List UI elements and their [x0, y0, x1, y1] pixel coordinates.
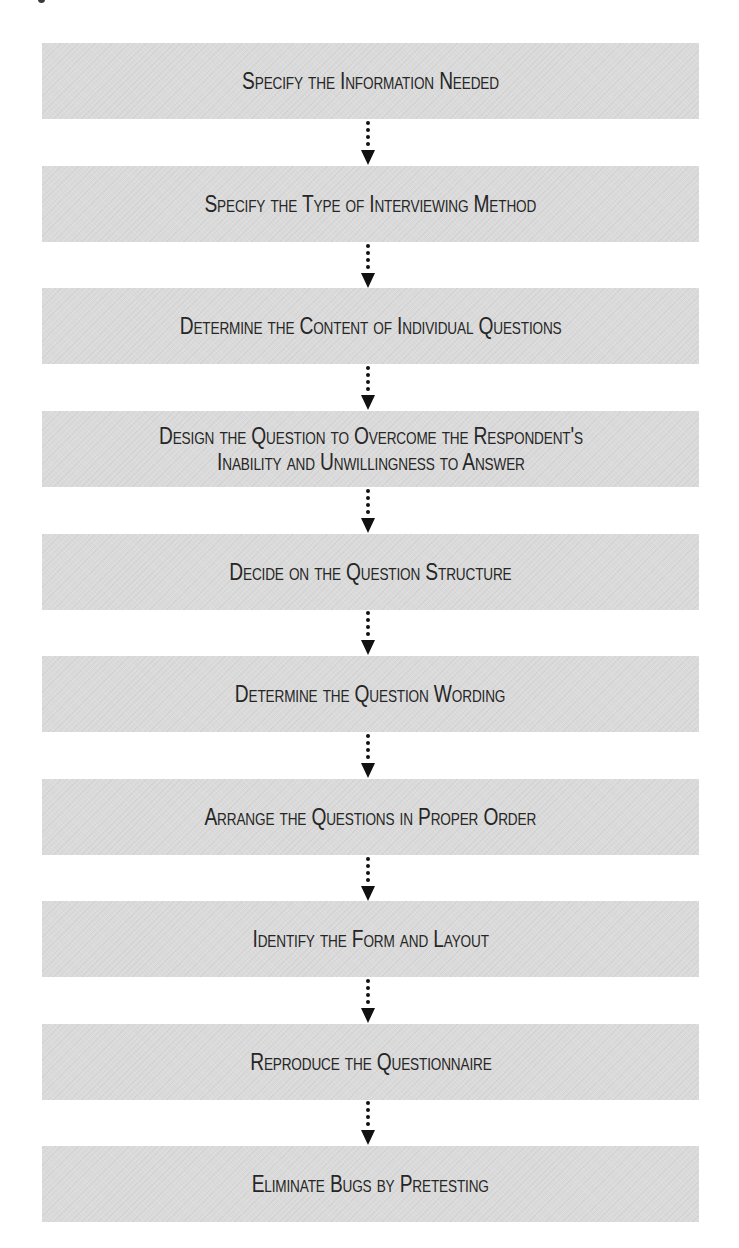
dot	[366, 1122, 370, 1126]
arrow-down-icon	[361, 640, 375, 655]
dot	[366, 121, 370, 125]
dot	[366, 373, 370, 377]
dot	[366, 618, 370, 622]
arrow-down-icon	[361, 273, 375, 288]
dot	[366, 625, 370, 629]
arrow-down-icon	[361, 1130, 375, 1145]
arrow-down-icon	[361, 886, 375, 901]
step-label-line: Eliminate Bugs by Pretesting	[252, 1171, 489, 1197]
dot	[366, 1000, 370, 1004]
step-label: Identify the Form and Layout	[252, 926, 488, 952]
dot	[366, 387, 370, 391]
dot	[366, 986, 370, 990]
step-label: Arrange the Questions in Proper Order	[205, 804, 537, 830]
step-question-wording: Determine the Question Wording	[42, 656, 699, 732]
arrow-down-icon	[361, 1008, 375, 1023]
dot	[366, 748, 370, 752]
dot	[366, 993, 370, 997]
dot	[366, 510, 370, 514]
dot	[366, 489, 370, 493]
step-question-order: Arrange the Questions in Proper Order	[42, 779, 699, 855]
step-label: Eliminate Bugs by Pretesting	[252, 1171, 489, 1197]
dotted-arrow-connector	[360, 610, 376, 656]
dotted-arrow-connector	[360, 243, 376, 289]
step-label-line: Specify the Information Needed	[242, 68, 499, 94]
step-question-structure: Decide on the Question Structure	[42, 534, 699, 610]
dot	[366, 496, 370, 500]
step-label-line: Inability and Unwillingness to Answer	[159, 449, 583, 475]
arrow-down-icon	[361, 150, 375, 165]
step-label-line: Determine the Question Wording	[235, 681, 505, 707]
dotted-arrow-connector	[360, 733, 376, 779]
dotted-arrow-connector	[360, 856, 376, 902]
dotted-arrow-connector	[360, 978, 376, 1024]
step-label-line: Reproduce the Questionnaire	[250, 1049, 491, 1075]
dot	[366, 878, 370, 882]
step-label-line: Specify the Type of Interviewing Method	[205, 191, 537, 217]
step-content-of-questions: Determine the Content of Individual Ques…	[42, 288, 699, 364]
step-form-and-layout: Identify the Form and Layout	[42, 901, 699, 977]
dot	[366, 857, 370, 861]
dotted-arrow-connector	[360, 1100, 376, 1146]
dot	[366, 871, 370, 875]
dot	[366, 741, 370, 745]
step-label-line: Determine the Content of Individual Ques…	[180, 313, 562, 339]
step-label-line: Decide on the Question Structure	[229, 559, 511, 585]
dot	[366, 135, 370, 139]
arrow-down-icon	[361, 518, 375, 533]
step-label: Design the Question to Overcome the Resp…	[159, 423, 583, 475]
step-reproduce-questionnaire: Reproduce the Questionnaire	[42, 1024, 699, 1100]
step-label: Specify the Information Needed	[242, 68, 499, 94]
dotted-arrow-connector	[360, 365, 376, 411]
dot	[366, 864, 370, 868]
step-label-line: Design the Question to Overcome the Resp…	[159, 423, 583, 449]
dot	[366, 380, 370, 384]
dot	[366, 1115, 370, 1119]
dot	[366, 1108, 370, 1112]
step-interviewing-method: Specify the Type of Interviewing Method	[42, 166, 699, 242]
step-label: Decide on the Question Structure	[229, 559, 511, 585]
dot	[366, 1101, 370, 1105]
dot	[366, 366, 370, 370]
step-label: Specify the Type of Interviewing Method	[205, 191, 537, 217]
dot	[366, 258, 370, 262]
arrow-down-icon	[361, 763, 375, 778]
dot	[366, 755, 370, 759]
step-overcome-inability: Design the Question to Overcome the Resp…	[42, 411, 699, 487]
dot	[366, 128, 370, 132]
dot	[366, 979, 370, 983]
step-label: Reproduce the Questionnaire	[250, 1049, 491, 1075]
dot	[366, 265, 370, 269]
dot	[366, 142, 370, 146]
dot	[366, 734, 370, 738]
dot	[366, 244, 370, 248]
step-label-line: Arrange the Questions in Proper Order	[205, 804, 537, 830]
step-specify-information: Specify the Information Needed	[42, 43, 699, 119]
dot	[366, 611, 370, 615]
dot	[366, 503, 370, 507]
step-label: Determine the Content of Individual Ques…	[180, 313, 562, 339]
arrow-down-icon	[361, 395, 375, 410]
step-label: Determine the Question Wording	[235, 681, 505, 707]
dot	[366, 632, 370, 636]
step-pretesting: Eliminate Bugs by Pretesting	[42, 1146, 699, 1222]
dotted-arrow-connector	[360, 120, 376, 166]
questionnaire-design-flowchart: Specify the Information Needed Specify t…	[0, 0, 739, 1248]
dot	[366, 251, 370, 255]
step-label-line: Identify the Form and Layout	[252, 926, 488, 952]
dotted-arrow-connector	[360, 488, 376, 534]
